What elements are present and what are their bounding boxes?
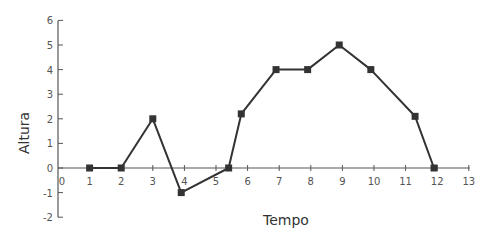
- x-tick-label: 1: [86, 176, 92, 187]
- y-tick-label: 2: [47, 114, 53, 125]
- y-tick-label: 6: [47, 15, 53, 26]
- y-tick-label: 0: [47, 163, 53, 174]
- x-tick-label: 7: [276, 176, 282, 187]
- y-tick-label: 5: [47, 40, 53, 51]
- y-tick-label: -1: [43, 188, 53, 199]
- x-tick-label: 4: [181, 176, 187, 187]
- x-axis-title: Tempo: [262, 212, 309, 228]
- data-point-marker: [412, 113, 419, 120]
- x-tick-label: 3: [150, 176, 156, 187]
- x-tick-label: 2: [118, 176, 124, 187]
- data-point-marker: [336, 42, 343, 49]
- data-point-marker: [149, 115, 156, 122]
- y-tick-label: 4: [47, 65, 53, 76]
- y-axis-title: Altura: [16, 112, 32, 154]
- x-tick-label: 12: [431, 176, 444, 187]
- data-point-marker: [238, 110, 245, 117]
- data-point-marker: [273, 66, 280, 73]
- x-tick-label: 10: [368, 176, 381, 187]
- y-axis: -2-10123456: [43, 15, 63, 223]
- y-tick-label: 1: [47, 138, 53, 149]
- data-point-marker: [225, 165, 232, 172]
- y-tick-label: 3: [47, 89, 53, 100]
- x-tick-label: 8: [308, 176, 314, 187]
- x-tick-label: 9: [339, 176, 345, 187]
- data-point-marker: [431, 165, 438, 172]
- x-tick-label: 11: [399, 176, 412, 187]
- x-tick-label: 6: [244, 176, 250, 187]
- data-point-marker: [118, 165, 125, 172]
- data-point-marker: [304, 66, 311, 73]
- line-chart: -2-10123456 012345678910111213 Altura Te…: [0, 0, 487, 242]
- data-point-marker: [178, 189, 185, 196]
- series-line: [90, 45, 434, 193]
- x-tick-label: 5: [213, 176, 219, 187]
- data-point-marker: [86, 165, 93, 172]
- x-tick-label: 0: [59, 176, 65, 187]
- y-tick-label: -2: [43, 212, 53, 223]
- data-point-marker: [367, 66, 374, 73]
- x-tick-label: 13: [462, 176, 475, 187]
- data-series: [86, 42, 437, 197]
